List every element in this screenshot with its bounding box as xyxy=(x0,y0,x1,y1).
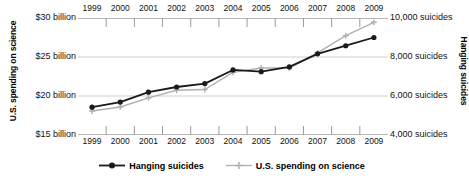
right-tick-1: 10,000 suicides xyxy=(390,12,453,22)
data-point xyxy=(343,43,348,48)
data-point xyxy=(117,104,123,110)
x-tick-label-top-2004: 2004 xyxy=(219,3,247,13)
x-tick-label-bottom-2005: 2005 xyxy=(247,136,275,146)
data-point xyxy=(371,35,376,40)
data-point xyxy=(174,84,179,89)
left-tick-1: $30 billion xyxy=(14,12,76,22)
left-tick-2: $25 billion xyxy=(14,51,76,61)
data-point xyxy=(89,105,94,110)
x-tick-label-top-2003: 2003 xyxy=(191,3,219,13)
x-axis-ticks-bottom: 1999200020012002200320042005200620072008… xyxy=(78,136,388,150)
right-axis-ticks: 10,000 suicides8,000 suicides6,000 suici… xyxy=(390,0,462,180)
left-tick-3: $20 billion xyxy=(14,90,76,100)
x-tick-label-bottom-2001: 2001 xyxy=(134,136,162,146)
plot-area xyxy=(78,18,388,135)
x-tick-label-top-2002: 2002 xyxy=(163,3,191,13)
chart-legend: Hanging suicidesU.S. spending on science xyxy=(0,160,464,171)
data-point xyxy=(371,19,377,25)
legend-label-1: Hanging suicides xyxy=(129,161,204,171)
plot-svg xyxy=(78,18,388,135)
data-point xyxy=(146,90,151,95)
data-point xyxy=(315,51,320,56)
data-point xyxy=(118,99,123,104)
x-tick-label-top-2009: 2009 xyxy=(360,3,388,13)
data-point xyxy=(230,67,235,72)
x-tick-label-bottom-2007: 2007 xyxy=(304,136,332,146)
data-point xyxy=(287,64,292,69)
left-axis-ticks: $30 billion$25 billion$20 billion$15 bil… xyxy=(14,0,76,180)
data-point xyxy=(202,81,207,86)
x-tick-label-top-2005: 2005 xyxy=(247,3,275,13)
data-point xyxy=(259,69,264,74)
x-tick-label-bottom-2009: 2009 xyxy=(360,136,388,146)
x-axis-ticks-top: 1999200020012002200320042005200620072008… xyxy=(78,3,388,17)
right-tick-3: 6,000 suicides xyxy=(390,90,448,100)
right-tick-2: 8,000 suicides xyxy=(390,51,448,61)
legend-plus-icon xyxy=(226,160,252,171)
legend-item-2[interactable]: U.S. spending on science xyxy=(226,160,365,171)
x-tick-label-bottom-1999: 1999 xyxy=(78,136,106,146)
legend-label-2: U.S. spending on science xyxy=(256,161,365,171)
x-tick-label-bottom-2004: 2004 xyxy=(219,136,247,146)
x-tick-label-bottom-2000: 2000 xyxy=(106,136,134,146)
right-tick-4: 4,000 suicides xyxy=(390,129,448,139)
x-tick-label-top-2006: 2006 xyxy=(275,3,303,13)
x-tick-label-top-2007: 2007 xyxy=(304,3,332,13)
x-tick-label-bottom-2008: 2008 xyxy=(332,136,360,146)
left-tick-4: $15 billion xyxy=(14,129,76,139)
x-tick-label-bottom-2006: 2006 xyxy=(275,136,303,146)
x-tick-label-bottom-2003: 2003 xyxy=(191,136,219,146)
legend-item-1[interactable]: Hanging suicides xyxy=(99,160,204,171)
legend-circle-icon xyxy=(99,160,125,171)
x-tick-label-top-1999: 1999 xyxy=(78,3,106,13)
x-tick-label-top-2008: 2008 xyxy=(332,3,360,13)
x-tick-label-top-2000: 2000 xyxy=(106,3,134,13)
x-tick-label-top-2001: 2001 xyxy=(134,3,162,13)
x-tick-label-bottom-2002: 2002 xyxy=(163,136,191,146)
